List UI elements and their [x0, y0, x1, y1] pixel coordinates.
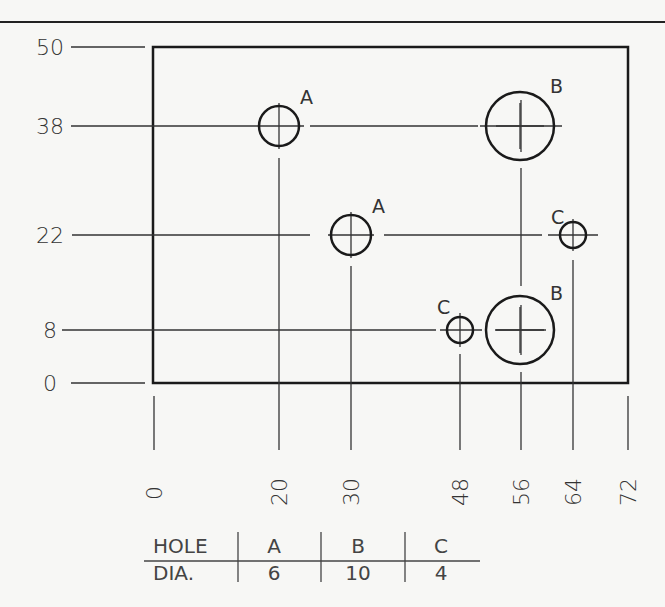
horizontal-centerlines — [258, 126, 598, 330]
y-dim-label: 38 — [36, 114, 64, 139]
hole-label: C — [551, 206, 564, 228]
x-dim-label: 0 — [142, 486, 167, 500]
hole-label: A — [300, 86, 313, 108]
x-dim-label: 48 — [448, 478, 473, 506]
x-dimension-lines — [154, 100, 628, 450]
table-cell-hole: A — [267, 534, 281, 558]
table-cell-hole: C — [434, 534, 448, 558]
hole-drawing: A B A C C B 50 38 22 8 0 0 20 30 48 56 6… — [0, 0, 665, 607]
y-dim-label: 50 — [36, 35, 64, 60]
hole-label: B — [550, 75, 563, 97]
x-dim-label: 20 — [267, 478, 292, 506]
table-cell-dia: 4 — [435, 561, 448, 585]
holes — [259, 92, 586, 364]
table-header-hole: HOLE — [153, 534, 208, 558]
x-dim-label: 56 — [509, 478, 534, 506]
table-header-dia: DIA. — [153, 561, 194, 585]
table-cell-hole: B — [351, 534, 365, 558]
hole-label: A — [372, 195, 385, 217]
y-dim-label: 0 — [43, 371, 57, 396]
hole-table: HOLE DIA. A B C 6 10 4 — [144, 532, 480, 585]
y-dim-label: 22 — [36, 223, 64, 248]
x-dim-label: 72 — [616, 478, 641, 506]
y-dim-label: 8 — [43, 318, 57, 343]
table-cell-dia: 6 — [268, 561, 281, 585]
hole-label: C — [437, 296, 450, 318]
hole-label: B — [550, 282, 563, 304]
hole-crosshairs — [496, 103, 544, 353]
table-cell-dia: 10 — [345, 561, 370, 585]
x-dim-label: 30 — [339, 478, 364, 506]
x-dim-label: 64 — [561, 478, 586, 506]
